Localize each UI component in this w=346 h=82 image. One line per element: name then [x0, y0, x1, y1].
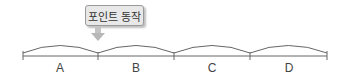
segment-label-b: B [121, 61, 151, 75]
segment-arcs [23, 46, 327, 54]
segment-label-d: D [274, 61, 304, 75]
segment-label-a: A [45, 61, 75, 75]
down-arrow-icon [91, 26, 105, 41]
segment-label-c: C [197, 61, 227, 75]
